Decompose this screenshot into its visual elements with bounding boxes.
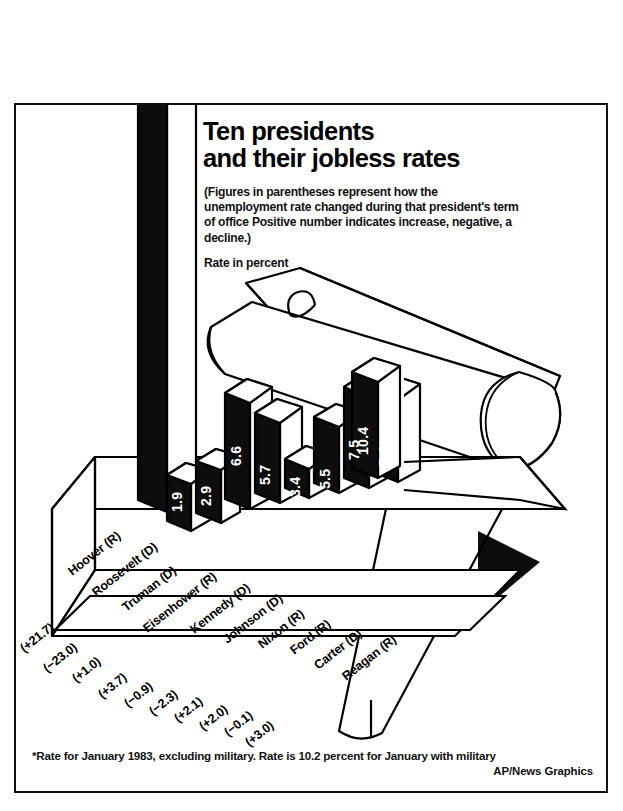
credit-line: AP/News Graphics (493, 765, 593, 777)
footnote: *Rate for January 1983, excluding milita… (32, 749, 560, 763)
axis-label-rate-in-percent: Rate in percent (204, 256, 288, 270)
bar-value-eisenhower: 6.6 (229, 446, 243, 466)
bar-value-truman: 2.9 (199, 486, 213, 506)
bar-value-nixon: 5.5 (318, 469, 332, 489)
headline-line-2: and their jobless rates (203, 145, 533, 172)
chart-subtitle: (Figures in parentheses represent how th… (204, 185, 522, 246)
bar-value-reagan: 10.4 (356, 427, 370, 455)
bar-value-kennedy: 5.7 (258, 465, 272, 485)
page-title: Ten presidents and their jobless rates (203, 118, 533, 173)
bar-value-carter: 7.4 (377, 446, 391, 466)
graphic-canvas: Ten presidents and their jobless rates (… (0, 0, 623, 811)
bar-value-roosevelt: 1.9 (170, 492, 184, 512)
bar-value-johnson: 3.4 (288, 477, 302, 497)
bar-value-hoover: 24.9 (141, 66, 155, 94)
headline-line-1: Ten presidents (203, 117, 374, 145)
